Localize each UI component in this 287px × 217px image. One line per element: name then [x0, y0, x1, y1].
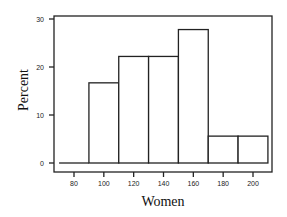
histogram-bar	[89, 83, 119, 163]
y-tick-label: 20	[36, 64, 44, 71]
x-tick-label: 180	[217, 180, 229, 187]
x-axis: 80100120140160180200	[70, 172, 259, 187]
x-tick-label: 80	[70, 180, 78, 187]
x-tick-label: 140	[158, 180, 170, 187]
x-tick-label: 100	[98, 180, 110, 187]
y-tick-label: 10	[36, 112, 44, 119]
histogram-bar	[238, 136, 268, 163]
histogram-bar	[149, 56, 179, 163]
y-axis-title: Percent	[16, 69, 31, 111]
x-tick-label: 160	[187, 180, 199, 187]
y-axis: 0102030	[36, 16, 54, 167]
x-tick-label: 120	[128, 180, 140, 187]
histogram-bar	[119, 56, 149, 163]
x-tick-label: 200	[247, 180, 259, 187]
histogram-bar	[178, 30, 208, 163]
histogram-bar	[208, 136, 238, 163]
y-tick-label: 0	[40, 160, 44, 167]
x-axis-title: Women	[141, 194, 184, 209]
histogram-chart: 0102030 80100120140160180200 Women Perce…	[0, 0, 287, 217]
histogram-bars	[59, 30, 268, 163]
y-tick-label: 30	[36, 16, 44, 23]
